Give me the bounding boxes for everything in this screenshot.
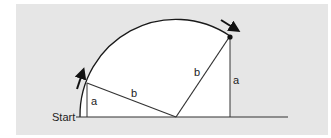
endpoint-dot — [227, 34, 232, 39]
right-height-label: a — [233, 74, 240, 86]
right-hyp-label: b — [194, 66, 200, 78]
arrow-up-icon — [77, 71, 83, 89]
left-height-label: a — [91, 95, 98, 107]
start-label: Start — [52, 111, 75, 123]
sector-fill — [80, 19, 230, 117]
rotation-diagram: Start a b b a — [0, 0, 331, 138]
left-hyp-label: b — [131, 87, 137, 99]
arrow-right-icon — [221, 20, 237, 30]
